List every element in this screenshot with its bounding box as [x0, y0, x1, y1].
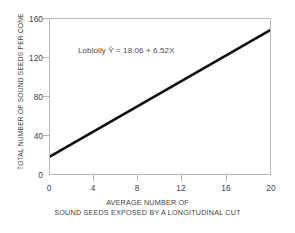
regression-equation-annotation: Loblolly Ŷ = 18.06 + 6.52X	[78, 46, 174, 55]
x-tick-label-4: 4	[78, 183, 108, 193]
x-tick-mark-4	[93, 175, 94, 181]
x-axis-title: AVERAGE NUMBER OF SOUND SEEDS EXPOSED BY…	[0, 198, 295, 218]
x-tick-label-8: 8	[122, 183, 152, 193]
x-tick-mark-8	[137, 175, 138, 181]
x-tick-mark-12	[181, 175, 182, 181]
y-tick-label-80: 80	[3, 92, 43, 102]
x-axis-title-line1: AVERAGE NUMBER OF	[0, 198, 295, 208]
x-tick-label-0: 0	[34, 183, 64, 193]
y-tick-label-0: 0	[3, 170, 43, 180]
chart-figure: TOTAL NUMBER OF SOUND SEEDS PER CONE 160…	[0, 0, 295, 233]
x-tick-mark-16	[226, 175, 227, 181]
regression-line-svg	[50, 19, 270, 174]
x-tick-label-20: 20	[256, 183, 286, 193]
x-tick-label-12: 12	[166, 183, 196, 193]
plot-area	[49, 18, 271, 175]
x-tick-label-16: 16	[211, 183, 241, 193]
x-axis-title-line2: SOUND SEEDS EXPOSED BY A LONGITUDINAL CU…	[0, 208, 295, 218]
y-tick-label-120: 120	[3, 53, 43, 63]
y-tick-label-160: 160	[3, 14, 43, 24]
y-tick-label-40: 40	[3, 131, 43, 141]
